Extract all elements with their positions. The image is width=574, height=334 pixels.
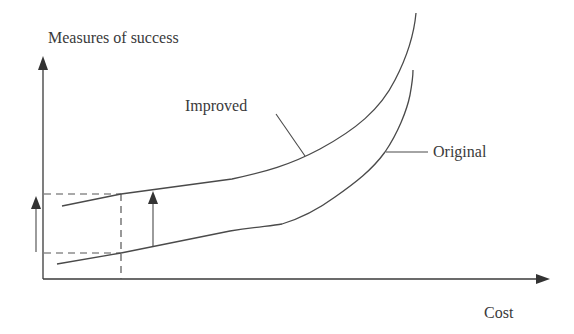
left-increase-arrow (31, 196, 41, 252)
y-axis (38, 56, 48, 279)
improved-curve-label: Improved (185, 97, 247, 115)
original-curve-label: Original (433, 143, 487, 161)
x-axis-label: Cost (484, 304, 514, 321)
y-axis-arrow-icon (38, 56, 48, 70)
improved-leader-line (276, 114, 305, 156)
x-axis (43, 274, 550, 284)
x-axis-arrow-icon (536, 274, 550, 284)
reference-lines (44, 194, 121, 279)
middle-shift-arrow (148, 191, 158, 247)
cost-success-diagram: Measures of success Cost Improved Origin… (0, 0, 574, 334)
arrow-up-icon (31, 196, 41, 209)
arrow-up-icon (148, 191, 158, 204)
y-axis-label: Measures of success (48, 29, 179, 46)
